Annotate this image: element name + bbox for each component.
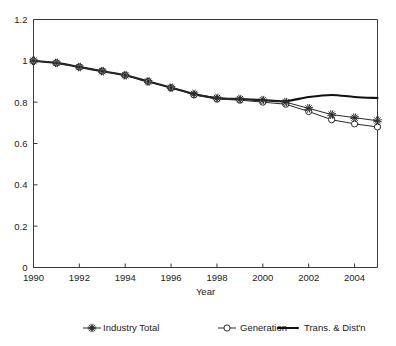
x-tick-label: 2000: [252, 272, 273, 283]
series-generation-marker: [374, 124, 380, 130]
y-tick-label: 0.4: [14, 179, 27, 190]
x-tick-label: 2004: [344, 272, 365, 283]
x-tick-label: 1990: [23, 272, 44, 283]
y-tick-label: 0.8: [14, 97, 27, 108]
x-axis-title: Year: [196, 286, 215, 297]
series-industry-total-line: [34, 61, 378, 121]
y-tick-label: 0.2: [14, 221, 27, 232]
series-trans-dist-line: [34, 61, 378, 101]
y-tick-label: 1: [22, 55, 27, 66]
x-tick-label: 1996: [161, 272, 182, 283]
chart-container: 00.20.40.60.811.219901992199419961998200…: [0, 0, 396, 346]
series-generation-marker: [351, 121, 357, 127]
x-tick-label: 1992: [69, 272, 90, 283]
legend-marker-generation: [224, 325, 230, 331]
legend-label-trans-dist: Trans. & Dist'n: [304, 322, 366, 333]
series-generation-marker: [329, 117, 335, 123]
series-generation-line: [34, 61, 378, 127]
x-tick-label: 1998: [206, 272, 227, 283]
x-tick-label: 2002: [298, 272, 319, 283]
legend-label-industry-total: Industry Total: [103, 322, 159, 333]
y-tick-label: 0.6: [14, 138, 27, 149]
y-tick-label: 1.2: [14, 14, 27, 25]
plot-frame: [34, 20, 378, 268]
x-tick-label: 1994: [115, 272, 136, 283]
line-chart: 00.20.40.60.811.219901992199419961998200…: [0, 0, 396, 346]
